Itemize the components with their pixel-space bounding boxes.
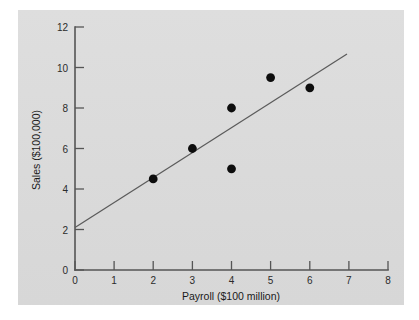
x-tick-label: 7 bbox=[346, 275, 352, 286]
y-tick-label: 12 bbox=[57, 22, 69, 33]
x-tick-label: 0 bbox=[72, 275, 78, 286]
regression-line bbox=[75, 54, 347, 228]
axes-group bbox=[75, 27, 388, 270]
y-tick-label: 4 bbox=[62, 184, 68, 195]
data-point bbox=[305, 83, 314, 92]
x-tick-label: 4 bbox=[229, 275, 235, 286]
y-tick-label: 8 bbox=[62, 103, 68, 114]
y-tick-labels-group: 12 10 8 6 4 2 0 bbox=[57, 22, 69, 276]
x-tick-label: 1 bbox=[111, 275, 117, 286]
x-tick-label: 2 bbox=[150, 275, 156, 286]
scatter-plot: 12 10 8 6 4 2 0 0 1 2 3 4 5 6 7 8 Payrol… bbox=[0, 0, 419, 320]
x-tick-labels-group: 0 1 2 3 4 5 6 7 8 bbox=[72, 275, 391, 286]
y-axis-title: Sales ($100,000) bbox=[30, 110, 42, 190]
y-tick-label: 0 bbox=[62, 265, 68, 276]
y-tick-label: 6 bbox=[62, 144, 68, 155]
x-tick-label: 6 bbox=[307, 275, 313, 286]
x-tick-label: 3 bbox=[190, 275, 196, 286]
x-ticks-group bbox=[75, 261, 388, 270]
y-tick-label: 10 bbox=[57, 63, 69, 74]
figure-root: 12 10 8 6 4 2 0 0 1 2 3 4 5 6 7 8 Payrol… bbox=[0, 0, 419, 320]
data-point bbox=[149, 175, 158, 184]
data-point bbox=[188, 144, 197, 153]
y-ticks-group bbox=[75, 27, 84, 270]
data-point bbox=[227, 164, 236, 173]
x-axis-title: Payroll ($100 million) bbox=[182, 290, 280, 302]
x-tick-label: 8 bbox=[385, 275, 391, 286]
x-tick-label: 5 bbox=[268, 275, 274, 286]
y-tick-label: 2 bbox=[62, 225, 68, 236]
data-point bbox=[266, 73, 275, 82]
data-point bbox=[227, 104, 236, 113]
